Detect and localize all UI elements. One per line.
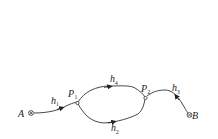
- node-p2-sub: 2: [148, 89, 151, 95]
- node-p1-marker: [76, 101, 79, 104]
- node-p2-marker: [144, 96, 147, 99]
- edge-h2: [78, 99, 145, 123]
- edge-h1-sub: 1: [56, 101, 59, 107]
- node-a-label: A: [17, 108, 25, 119]
- edge-h2-sub: 2: [116, 129, 119, 135]
- node-b-label: B: [192, 110, 198, 121]
- node-a-icon: [29, 111, 34, 116]
- node-p2-label: P: [140, 83, 147, 94]
- node-p1-label: P: [67, 88, 74, 99]
- pipe-network-diagram: A B P 1 P 2 h 1 h 4 h 2 h 3: [0, 0, 218, 139]
- edge-h3-sub: 3: [177, 89, 180, 95]
- edge-h3: [147, 90, 188, 113]
- node-p1-sub: 1: [75, 94, 78, 100]
- edge-h4-sub: 4: [115, 80, 118, 86]
- edge-h4: [78, 86, 145, 102]
